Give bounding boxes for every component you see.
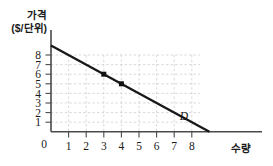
x-axis-title: 수량: [231, 142, 251, 154]
demand-curve-chart: 1 2 3 4 5 6 7 8 1 2 3 4 5 6 7 8 0 가격 ($/…: [0, 0, 273, 166]
y-tick-label-8: 8: [35, 49, 41, 61]
x-tick-label-7: 7: [171, 140, 177, 152]
x-tick-label-6: 6: [154, 140, 160, 152]
x-tick-label-3: 3: [101, 140, 107, 152]
demand-curve-figure: 1 2 3 4 5 6 7 8 1 2 3 4 5 6 7 8 0 가격 ($/…: [0, 0, 273, 166]
y-axis-tick-labels: 1 2 3 4 5 6 7 8: [35, 49, 41, 128]
datapoint-marker-1: [101, 72, 106, 77]
y-axis-title-line2: ($/단위): [11, 22, 47, 34]
x-tick-label-1: 1: [66, 140, 72, 152]
y-axis-ticks: [46, 55, 52, 122]
x-tick-label-2: 2: [83, 140, 89, 152]
x-axis-tick-labels: 1 2 3 4 5 6 7 8: [66, 140, 195, 152]
y-axis-title-line1: 가격: [27, 9, 47, 21]
origin-label: 0: [41, 138, 47, 150]
gridlines-horizontal: [51, 55, 200, 122]
demand-curve-label: D: [179, 110, 189, 122]
x-tick-label-4: 4: [119, 140, 125, 152]
datapoint-marker-2: [119, 81, 124, 86]
x-tick-label-8: 8: [189, 140, 195, 152]
x-axis-ticks: [69, 132, 192, 138]
x-tick-label-5: 5: [136, 140, 142, 152]
